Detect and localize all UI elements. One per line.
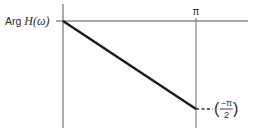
y-tick-denominator: 2: [224, 110, 229, 120]
phase-response-figure: Arg H(ω) π ( −π 2 ): [0, 0, 255, 133]
y-axis-label: Arg H(ω): [5, 14, 49, 28]
phase-plot: Arg H(ω) π ( −π 2 ): [0, 0, 255, 133]
x-tick-pi: π: [193, 6, 200, 17]
phase-curve: [63, 21, 196, 109]
paren-open: (: [214, 100, 220, 117]
paren-close: ): [233, 100, 238, 117]
y-tick-numerator: −π: [221, 98, 232, 108]
